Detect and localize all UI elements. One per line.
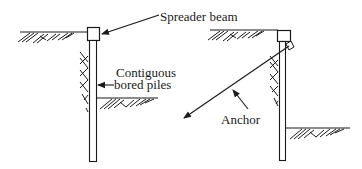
right-wall: Anchor: [184, 30, 350, 161]
retaining-wall-diagram: Spreader beam Contiguous bored piles: [0, 0, 362, 169]
right-ground-hatch: [208, 31, 264, 41]
contiguous-piles-label-line2: bored piles: [114, 77, 171, 92]
ground-anchor: [184, 46, 289, 118]
right-capping-beam: [278, 31, 291, 42]
spreader-beam: [88, 28, 100, 41]
anchor-leader: [233, 90, 248, 109]
right-contiguous-pile: [280, 42, 286, 161]
spreader-beam-label: Spreader beam: [160, 9, 238, 24]
anchor-head: [286, 41, 294, 50]
left-ground-hatch: [18, 33, 74, 43]
left-retained-soil-hatch: [80, 52, 88, 112]
spreader-beam-leader: [102, 15, 159, 34]
right-excavation-hatch: [290, 129, 344, 139]
right-retained-soil-hatch: [270, 56, 278, 106]
anchor-label: Anchor: [221, 112, 261, 127]
left-contiguous-pile: [90, 41, 97, 162]
left-wall: Spreader beam Contiguous bored piles: [18, 9, 238, 162]
left-excavation-hatch: [100, 99, 154, 109]
